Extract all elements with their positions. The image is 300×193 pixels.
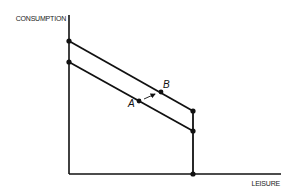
point-a-label: A: [127, 98, 135, 109]
lower-intercept-dot: [66, 59, 71, 64]
lower-kink-dot: [190, 128, 195, 133]
point-a-dot: [137, 99, 142, 104]
a-to-b-arrow: [144, 94, 155, 99]
x-axis-label: LEISURE: [251, 180, 280, 187]
point-b-label: B: [163, 79, 170, 90]
point-b-dot: [159, 90, 164, 95]
upper-kink-dot: [190, 108, 195, 113]
budget-constraint-diagram: CONSUMPTION LEISURE A B: [0, 0, 300, 193]
lower-budget-line: [69, 62, 193, 131]
upper-intercept-dot: [66, 38, 71, 43]
y-axis-label: CONSUMPTION: [16, 15, 66, 22]
x-axis-dot: [190, 171, 195, 176]
